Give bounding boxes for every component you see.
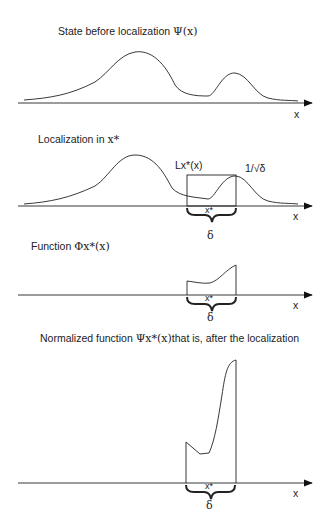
width-label-4: δ [206,499,213,512]
panel-4-title: Normalized function Ψx*(x)that is, after… [40,332,299,345]
axis-label-3: x [293,299,298,311]
axis-label-2: x [293,210,298,222]
wavefunction-curve [24,52,298,101]
psi-symbol: Ψ(x) [173,25,197,38]
width-label-3: δ [207,311,214,324]
axis-label-1: x [294,108,299,120]
phi-curve [187,265,236,295]
panel-2-title: Localization in x* [38,133,119,146]
localization-box [187,175,236,206]
normalized-curve [186,360,236,483]
panel-1-title: State before localization Ψ(x) [58,25,197,38]
axis-label-4: x [293,487,298,499]
center-label-3: x* [205,293,213,303]
panel-3-title: Function Φx*(x) [31,240,110,253]
height-label: 1/√δ [245,162,265,174]
center-label-2: x* [205,205,213,215]
width-label-2: δ [207,229,214,242]
localization-diagram [0,0,332,523]
center-label-4: x* [205,481,213,491]
box-label: Lx*(x) [175,159,202,171]
